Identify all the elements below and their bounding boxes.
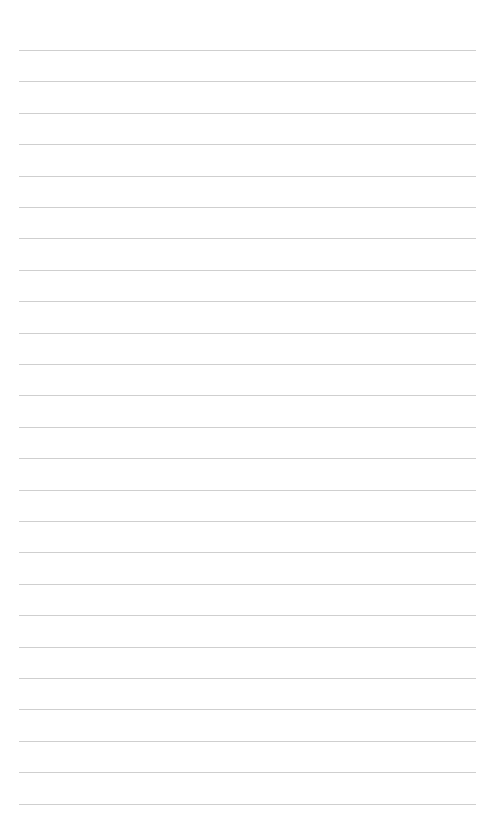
ruled-line xyxy=(19,647,476,648)
ruled-line xyxy=(19,144,476,145)
ruled-line xyxy=(19,270,476,271)
ruled-line xyxy=(19,804,476,805)
ruled-line xyxy=(19,490,476,491)
ruled-line xyxy=(19,301,476,302)
ruled-line xyxy=(19,741,476,742)
ruled-line xyxy=(19,584,476,585)
ruled-line xyxy=(19,113,476,114)
ruled-line xyxy=(19,50,476,51)
ruled-line xyxy=(19,207,476,208)
ruled-line xyxy=(19,176,476,177)
ruled-line xyxy=(19,81,476,82)
ruled-line xyxy=(19,678,476,679)
ruled-line xyxy=(19,333,476,334)
ruled-line xyxy=(19,395,476,396)
ruled-line xyxy=(19,615,476,616)
lined-paper-page xyxy=(0,0,499,836)
ruled-line xyxy=(19,521,476,522)
ruled-line xyxy=(19,458,476,459)
ruled-line xyxy=(19,427,476,428)
ruled-line xyxy=(19,552,476,553)
ruled-line xyxy=(19,772,476,773)
ruled-line xyxy=(19,238,476,239)
ruled-line xyxy=(19,709,476,710)
ruled-line xyxy=(19,364,476,365)
